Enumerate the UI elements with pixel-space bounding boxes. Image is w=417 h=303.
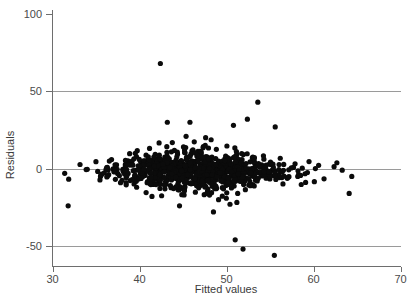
data-point bbox=[213, 183, 218, 188]
data-point bbox=[234, 149, 239, 154]
data-point bbox=[182, 150, 187, 155]
data-point bbox=[312, 179, 317, 184]
data-point bbox=[153, 182, 158, 187]
data-point-outlier-6 bbox=[273, 124, 278, 129]
data-point bbox=[281, 174, 286, 179]
data-point bbox=[174, 154, 179, 159]
data-point bbox=[278, 156, 283, 161]
data-point bbox=[136, 176, 141, 181]
data-point bbox=[192, 139, 197, 144]
data-point bbox=[157, 153, 162, 158]
data-point bbox=[77, 162, 82, 167]
y-tick-label-50: 50 bbox=[30, 85, 42, 97]
data-point-outlier-15 bbox=[340, 168, 345, 173]
data-point bbox=[206, 156, 211, 161]
x-tick-group bbox=[54, 267, 402, 273]
data-point bbox=[124, 182, 129, 187]
data-point bbox=[170, 140, 175, 145]
data-point bbox=[179, 168, 184, 173]
data-point bbox=[199, 179, 204, 184]
y-tick-label-0: 0 bbox=[36, 163, 42, 175]
data-point bbox=[164, 150, 169, 155]
x-tick-label-40: 40 bbox=[133, 273, 145, 285]
data-point bbox=[130, 163, 135, 168]
x-tick-label-60: 60 bbox=[307, 273, 319, 285]
data-point-outlier-10 bbox=[211, 209, 216, 214]
data-point bbox=[127, 151, 132, 156]
data-point bbox=[252, 155, 257, 160]
data-point-outlier-5 bbox=[231, 123, 236, 128]
data-point-outlier-7 bbox=[62, 171, 67, 176]
data-point-outlier-17 bbox=[347, 191, 352, 196]
data-point bbox=[222, 158, 227, 163]
data-point-group bbox=[62, 61, 354, 258]
data-point bbox=[173, 174, 178, 179]
y-tick-label-group: 100500-50 bbox=[24, 8, 42, 252]
data-point bbox=[123, 168, 128, 173]
data-point bbox=[180, 176, 185, 181]
data-point bbox=[201, 154, 206, 159]
data-point bbox=[271, 165, 276, 170]
data-point bbox=[171, 186, 176, 191]
data-point bbox=[321, 176, 326, 181]
data-point bbox=[133, 151, 138, 156]
data-point bbox=[289, 165, 294, 170]
data-point bbox=[220, 194, 225, 199]
data-point bbox=[103, 167, 108, 172]
data-point bbox=[248, 171, 253, 176]
data-point-outlier-16 bbox=[349, 174, 354, 179]
data-point bbox=[157, 186, 162, 191]
data-point bbox=[182, 188, 187, 193]
data-point bbox=[295, 168, 300, 173]
data-point bbox=[193, 190, 198, 195]
data-point bbox=[118, 180, 123, 185]
data-point bbox=[218, 178, 223, 183]
data-point bbox=[188, 160, 193, 165]
data-point bbox=[124, 173, 129, 178]
data-point bbox=[228, 161, 233, 166]
data-point bbox=[196, 158, 201, 163]
data-point bbox=[199, 149, 204, 154]
data-point bbox=[286, 174, 291, 179]
data-point-outlier-12 bbox=[233, 237, 238, 242]
x-tick-label-70: 70 bbox=[394, 273, 406, 285]
data-point bbox=[183, 134, 188, 139]
data-point bbox=[107, 158, 112, 163]
data-point bbox=[281, 162, 286, 167]
data-point bbox=[113, 177, 118, 182]
data-point bbox=[112, 169, 117, 174]
data-point bbox=[162, 186, 167, 191]
y-tick-label--50: -50 bbox=[26, 240, 42, 252]
data-point bbox=[85, 167, 90, 172]
data-point bbox=[152, 164, 157, 169]
data-point bbox=[97, 177, 102, 182]
residuals-vs-fitted-chart: 100500-50 3040506070 Fitted values Resid… bbox=[0, 0, 417, 303]
data-point bbox=[203, 143, 208, 148]
data-point bbox=[131, 156, 136, 161]
data-point bbox=[217, 170, 222, 175]
data-point bbox=[130, 177, 135, 182]
data-point bbox=[203, 135, 208, 140]
data-point-outlier-1 bbox=[255, 100, 260, 105]
y-tick-group bbox=[46, 15, 53, 247]
data-point bbox=[189, 180, 194, 185]
data-point bbox=[305, 170, 310, 175]
y-axis-title: Residuals bbox=[4, 130, 16, 179]
data-point bbox=[207, 166, 212, 171]
data-point-outlier-4 bbox=[245, 117, 250, 122]
data-point bbox=[126, 162, 131, 167]
data-point bbox=[145, 180, 150, 185]
data-point bbox=[66, 177, 71, 182]
scatter-plot-canvas: 100500-50 3040506070 Fitted values Resid… bbox=[0, 0, 417, 303]
data-point bbox=[181, 144, 186, 149]
data-point bbox=[188, 167, 193, 172]
data-point bbox=[137, 157, 142, 162]
data-point bbox=[248, 183, 253, 188]
data-point bbox=[136, 167, 141, 172]
data-point-outlier-9 bbox=[177, 203, 182, 208]
data-point bbox=[239, 151, 244, 156]
data-point bbox=[266, 169, 271, 174]
data-point bbox=[205, 178, 210, 183]
data-point bbox=[168, 165, 173, 170]
data-point bbox=[240, 175, 245, 180]
